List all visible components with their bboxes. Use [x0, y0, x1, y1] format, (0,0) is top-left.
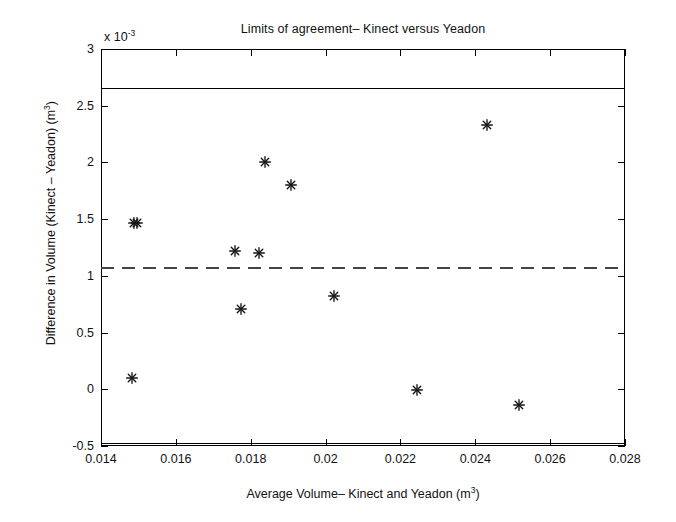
data-point-8 — [327, 290, 340, 303]
bland-altman-chart: x 10-3 Limits of agreement– Kinect versu… — [0, 0, 676, 522]
data-point-11 — [513, 399, 526, 412]
x-tick-1 — [176, 49, 177, 56]
y-tick-1 — [101, 389, 108, 390]
y-tick-5 — [618, 162, 625, 163]
chart-title: Limits of agreement– Kinect versus Yeado… — [101, 22, 625, 36]
x-tick-label-0: 0.014 — [71, 452, 131, 466]
data-point-2 — [130, 216, 143, 229]
y-tick-label-0: -0.5 — [50, 439, 94, 453]
data-point-9 — [411, 384, 424, 397]
data-point-7 — [285, 179, 298, 192]
data-point-0 — [125, 371, 138, 384]
y-tick-3 — [618, 276, 625, 277]
y-tick-6 — [618, 106, 625, 107]
x-tick-0 — [101, 49, 102, 56]
data-point-10 — [481, 119, 494, 132]
y-tick-6 — [101, 106, 108, 107]
x-tick-3 — [326, 49, 327, 56]
x-tick-label-2: 0.018 — [221, 452, 281, 466]
x-tick-label-1: 0.016 — [146, 452, 206, 466]
data-point-3 — [228, 244, 241, 257]
x-tick-label-6: 0.026 — [520, 452, 580, 466]
x-tick-7 — [625, 49, 626, 56]
y-tick-5 — [101, 162, 108, 163]
y-tick-3 — [101, 276, 108, 277]
y-tick-1 — [618, 389, 625, 390]
x-tick-label-4: 0.022 — [370, 452, 430, 466]
x-tick-label-7: 0.028 — [595, 452, 655, 466]
y-tick-2 — [618, 333, 625, 334]
y-tick-4 — [101, 219, 108, 220]
x-tick-6 — [550, 49, 551, 56]
mean-difference — [101, 267, 625, 269]
y-tick-0 — [101, 446, 108, 447]
y-tick-4 — [618, 219, 625, 220]
data-point-6 — [258, 156, 271, 169]
y-axis-label: Difference in Volume (Kinect – Yeadon) (… — [42, 23, 58, 423]
x-tick-2 — [251, 49, 252, 56]
lower-limit-of-agreement — [101, 443, 625, 444]
y-tick-0 — [618, 446, 625, 447]
data-point-5 — [252, 247, 265, 260]
x-tick-label-5: 0.024 — [445, 452, 505, 466]
x-tick-4 — [400, 49, 401, 56]
plot-area — [101, 49, 625, 446]
x-tick-5 — [475, 49, 476, 56]
x-tick-7 — [625, 439, 626, 446]
y-tick-2 — [101, 333, 108, 334]
y-tick-7 — [101, 49, 108, 50]
x-tick-label-3: 0.02 — [296, 452, 356, 466]
x-axis-label: Average Volume– Kinect and Yeadon (m3) — [101, 485, 625, 501]
upper-limit-of-agreement — [101, 88, 625, 89]
data-point-4 — [235, 302, 248, 315]
y-tick-7 — [618, 49, 625, 50]
